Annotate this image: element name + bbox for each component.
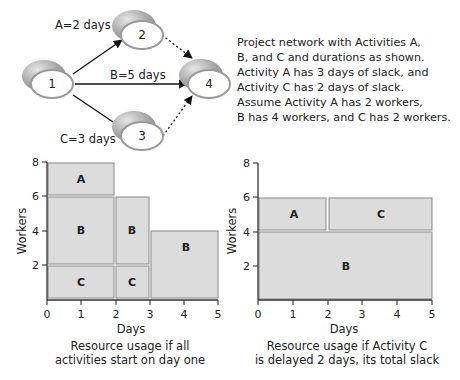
chart-left: A B B B C C 8 6 4 2 0 1 2 3 4 5 [15, 156, 222, 336]
node-4-label: 4 [205, 77, 213, 91]
x-tick-label: 2 [113, 308, 120, 321]
edge-b-label: B=5 days [110, 68, 166, 82]
node-1-label: 1 [48, 77, 56, 91]
y-ticks [42, 162, 47, 265]
x-tick-label: 1 [290, 308, 297, 321]
caption-line: Resource usage if Activity C [234, 339, 460, 353]
block-label-b: B [77, 224, 85, 237]
block-label-c: C [77, 276, 85, 289]
x-tick-label: 0 [44, 308, 51, 321]
y-axis-label: Workers [225, 208, 239, 255]
x-axis-label: Days [330, 322, 359, 336]
x-ticks [258, 300, 432, 305]
chart-right: B A C 8 6 4 2 0 1 2 3 4 5 Days Workers [225, 157, 436, 336]
node-4: 4 [179, 59, 230, 98]
project-network: A=2 days B=5 days C=3 days 1 2 3 4 [22, 10, 230, 150]
block-label-a: A [290, 208, 299, 221]
y-tick-label: 6 [32, 190, 39, 203]
x-tick-label: 3 [147, 308, 154, 321]
y-axis-label: Workers [15, 208, 29, 255]
description-line: Activity A has 3 days of slack, and [237, 65, 459, 80]
y-tick-label: 8 [32, 156, 39, 169]
x-ticks [47, 300, 218, 305]
block-label-b: B [128, 224, 136, 237]
x-tick-label: 1 [78, 308, 85, 321]
caption-line: Resource usage if all [30, 339, 230, 353]
x-tick-label: 4 [181, 308, 188, 321]
caption-line: is delayed 2 days, its total slack [234, 353, 460, 367]
edge-a-label: A=2 days [55, 18, 111, 32]
y-ticks [253, 163, 258, 266]
node-3: 3 [112, 111, 163, 150]
y-tick-label: 2 [32, 259, 39, 272]
block-label-b: B [182, 241, 190, 254]
y-tick-label: 4 [243, 226, 250, 239]
block-label-b: B [342, 260, 350, 273]
description-line: Assume Activity A has 2 workers, [237, 95, 459, 110]
x-tick-label: 5 [215, 308, 222, 321]
edge-dummy-3-4 [163, 96, 192, 136]
chart-right-caption: Resource usage if Activity C is delayed … [234, 339, 460, 367]
node-2: 2 [112, 10, 163, 49]
node-1: 1 [22, 60, 73, 98]
chart-left-caption: Resource usage if all activities start o… [30, 339, 230, 367]
description-line: Activity C has 2 days of slack. [237, 80, 459, 95]
caption-line: activities start on day one [30, 353, 230, 367]
network-description: Project network with Activities A, B, an… [237, 35, 459, 125]
description-line: Project network with Activities A, [237, 35, 459, 50]
x-axis-label: Days [117, 322, 146, 336]
bars-right [259, 198, 432, 299]
description-line: B has 4 workers, and C has 2 workers. [237, 110, 459, 125]
x-tick-label: 2 [325, 308, 332, 321]
y-tick-label: 8 [243, 157, 250, 170]
x-tick-label: 4 [394, 308, 401, 321]
description-line: B, and C and durations as shown. [237, 50, 459, 65]
block-label-c: C [377, 208, 385, 221]
y-tick-label: 6 [243, 191, 250, 204]
x-tick-label: 3 [359, 308, 366, 321]
node-2-label: 2 [138, 28, 146, 42]
y-tick-label: 2 [243, 260, 250, 273]
edge-c-label: C=3 days [60, 132, 116, 146]
y-tick-label: 4 [32, 225, 39, 238]
node-3-label: 3 [138, 129, 146, 143]
x-tick-label: 5 [429, 308, 436, 321]
block-label-c: C [128, 276, 136, 289]
x-tick-label: 0 [255, 308, 262, 321]
block-label-a: A [77, 173, 86, 186]
edge-dummy-2-4 [162, 35, 192, 58]
